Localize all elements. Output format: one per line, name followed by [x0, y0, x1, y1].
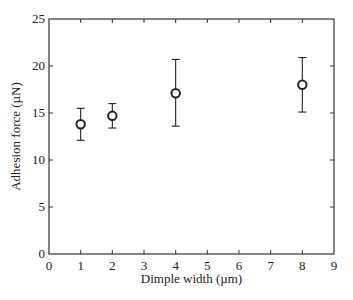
plot-frame [49, 19, 334, 254]
data-points [76, 58, 306, 141]
tick-labels: 01234567890510152025 [32, 11, 337, 273]
y-tick-label: 10 [32, 152, 45, 167]
y-tick-label: 0 [39, 246, 46, 261]
open-circle-marker [76, 120, 84, 128]
open-circle-marker [298, 81, 306, 89]
scatter-chart: 01234567890510152025 Dimple width (µm) A… [0, 0, 353, 300]
x-axis-label: Dimple width (µm) [141, 271, 242, 286]
data-point [108, 104, 116, 128]
x-tick-label: 0 [46, 258, 53, 273]
x-tick-label: 9 [331, 258, 338, 273]
open-circle-marker [108, 112, 116, 120]
data-point [298, 58, 306, 113]
axis-ticks [49, 19, 334, 254]
data-point [171, 59, 179, 126]
data-point [76, 108, 84, 140]
y-tick-label: 5 [39, 199, 46, 214]
y-tick-label: 25 [32, 11, 45, 26]
x-tick-label: 8 [299, 258, 306, 273]
x-tick-label: 2 [109, 258, 116, 273]
y-tick-label: 20 [32, 58, 45, 73]
y-tick-label: 15 [32, 105, 45, 120]
open-circle-marker [171, 89, 179, 97]
x-tick-label: 7 [267, 258, 274, 273]
x-tick-label: 1 [77, 258, 84, 273]
y-axis-label: Adhesion force (µN) [8, 82, 23, 191]
